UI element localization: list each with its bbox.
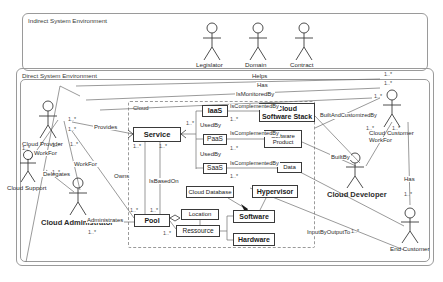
multiplicity-label: 1..* — [374, 94, 382, 99]
class-ressource-label: Ressource — [182, 228, 213, 235]
multiplicity-label: 1..* — [68, 117, 76, 122]
relation-label-builtandcustomizedby: BuiltAndCustomizedBy — [319, 113, 378, 119]
multiplicity-label: 1..* — [230, 174, 238, 179]
actor-label-cloud-support: Cloud Support — [7, 185, 47, 191]
class-saas[interactable]: SaaS — [203, 163, 227, 174]
class-service-label: Service — [144, 131, 171, 139]
multiplicity-label: 1..* — [22, 146, 30, 151]
class-paas-label: PaaS — [207, 136, 223, 143]
multiplicity-label: 1..* — [404, 192, 412, 197]
multiplicity-label: 1..* — [130, 208, 138, 213]
class-iaas[interactable]: IaaS — [202, 105, 228, 117]
class-hypervisor[interactable]: Hypervisor — [252, 185, 298, 198]
class-data-label: Data — [283, 164, 296, 170]
class-hardware-label: Hardware — [238, 236, 270, 243]
class-cloud-database[interactable]: Cloud Database — [186, 186, 234, 198]
class-location-label: Location — [189, 211, 212, 217]
multiplicity-label: 1..* — [52, 170, 60, 175]
multiplicity-label: 1..* — [230, 117, 238, 122]
class-software[interactable]: Software — [233, 210, 275, 223]
class-service[interactable]: Service — [133, 127, 181, 142]
class-pool-label: Pool — [144, 217, 159, 224]
relation-label-usedby-2: UsedBy — [199, 151, 222, 157]
class-data[interactable]: Data — [277, 162, 302, 173]
relation-label-has-top: Has — [256, 82, 269, 88]
relation-label-isbasedon: IsBasedOn — [148, 178, 180, 184]
aggregation-diamond — [170, 215, 180, 221]
multiplicity-label: 1..* — [163, 231, 171, 236]
multiplicity-label: 1..* — [392, 126, 400, 131]
actor-label-cloud-developer: Cloud Developer — [327, 191, 387, 199]
uml-domain-diagram: Indirect System Environment Direct Syste… — [0, 0, 443, 282]
class-paas[interactable]: PaaS — [203, 134, 227, 145]
multiplicity-label: 1..* — [52, 143, 60, 148]
actor-label-contract: Contract — [290, 62, 313, 68]
multiplicity-label: 1..* — [88, 230, 96, 235]
class-cloud-database-label: Cloud Database — [188, 189, 231, 195]
actor-figures — [20, 23, 419, 243]
class-saas-label: SaaS — [207, 165, 223, 172]
class-hardware[interactable]: Hardware — [233, 233, 275, 246]
relation-label-administrates: Administrates — [86, 217, 124, 223]
relation-label-builtby: BuiltBy — [330, 154, 351, 160]
class-ressource[interactable]: Ressource — [176, 225, 220, 237]
multiplicity-label: 1..* — [68, 127, 76, 132]
multiplicity-label: 1..* — [159, 144, 167, 149]
relation-label-ismonitoredby: IsMonitoredBy — [235, 91, 275, 97]
relation-label-provides: Provides — [93, 124, 118, 130]
class-location[interactable]: Location — [181, 209, 219, 220]
multiplicity-label: 1..* — [70, 142, 78, 147]
multiplicity-label: 1..* — [133, 144, 141, 149]
relation-label-owns: Owns — [113, 173, 130, 179]
multiplicity-label: 1..* — [351, 229, 359, 234]
multiplicity-label: 1..* — [150, 208, 158, 213]
relation-label-iscomplementedby-3: IsComplementedBy — [229, 161, 280, 167]
relation-label-workfor-right: WorkFor — [368, 137, 393, 143]
multiplicity-label: 1..* — [230, 146, 238, 151]
multiplicity-label: 1..* — [384, 72, 392, 77]
class-iaas-label: IaaS — [208, 107, 222, 114]
actor-label-legislator: Legislator — [196, 62, 223, 68]
relation-label-inputbyoutputto: InputByOutputTo — [306, 230, 351, 236]
actor-label-domain: Domain — [245, 62, 266, 68]
class-hypervisor-label: Hypervisor — [257, 188, 294, 195]
relation-label-iscomplementedby-2: IsComplementedBy — [229, 131, 280, 137]
relation-label-iscomplementedby-1: IsComplementedBy — [229, 104, 280, 110]
relation-label-has-right: Has — [403, 176, 416, 182]
relation-label-workfor-a: WorkFor — [33, 150, 58, 156]
relation-label-helps: Helps — [251, 73, 268, 79]
multiplicity-label: 1..* — [186, 121, 194, 126]
multiplicity-label: 1..* — [366, 126, 374, 131]
class-software-label: Software — [239, 213, 269, 220]
multiplicity-label: 1..* — [384, 81, 392, 86]
class-pool[interactable]: Pool — [134, 214, 170, 227]
actor-label-end-customer: End Customer — [390, 246, 430, 252]
relation-label-workfor-b: WorkFor — [73, 161, 98, 167]
relation-label-usedby-1: UsedBy — [199, 122, 222, 128]
